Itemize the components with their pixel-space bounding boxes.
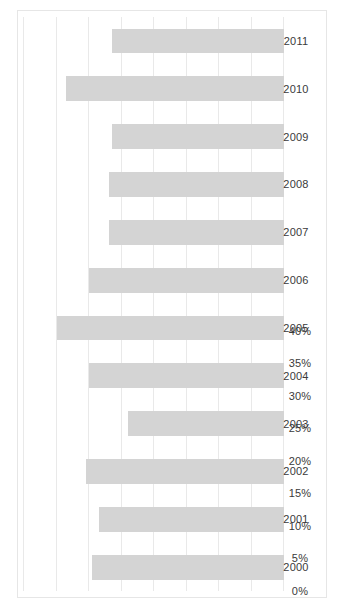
bar-slot — [24, 161, 284, 209]
plot-area — [24, 17, 284, 591]
category-tick-label-2003: 2003 — [273, 418, 319, 430]
bar-slot — [24, 256, 284, 304]
bar-slot — [24, 208, 284, 256]
bar-2004[interactable] — [89, 363, 284, 388]
bar-slot — [24, 543, 284, 591]
bar-2001[interactable] — [99, 507, 284, 532]
category-tick-label-2002: 2002 — [273, 465, 319, 477]
category-tick-label-2006: 2006 — [273, 274, 319, 286]
bar-slot — [24, 17, 284, 65]
bar-2009[interactable] — [112, 124, 284, 149]
bar-2003[interactable] — [128, 411, 284, 436]
category-tick-label-2009: 2009 — [273, 131, 319, 143]
bar-2002[interactable] — [86, 459, 284, 484]
category-tick-label-2008: 2008 — [273, 178, 319, 190]
category-tick-label-2011: 2011 — [273, 35, 319, 47]
bar-chart: 0%5%10%15%20%25%30%35%40% 20002001200220… — [18, 11, 326, 597]
chart-figure: 0%5%10%15%20%25%30%35%40% 20002001200220… — [17, 10, 327, 598]
bar-2011[interactable] — [112, 29, 284, 54]
bar-slot — [24, 448, 284, 496]
category-tick-label-2010: 2010 — [273, 83, 319, 95]
bar-2000[interactable] — [92, 555, 284, 580]
category-axis-ticks: 2000200120022003200420052006200720082009… — [286, 17, 322, 591]
chart-rotation-wrapper: 0%5%10%15%20%25%30%35%40% 20002001200220… — [18, 11, 326, 597]
bar-2008[interactable] — [109, 172, 285, 197]
category-tick-label-2000: 2000 — [273, 561, 319, 573]
bar-slot — [24, 113, 284, 161]
bar-2007[interactable] — [109, 220, 285, 245]
category-tick-label-2001: 2001 — [273, 513, 319, 525]
bar-2010[interactable] — [66, 76, 284, 101]
category-tick-label-2007: 2007 — [273, 226, 319, 238]
bar-slot — [24, 352, 284, 400]
bar-slot — [24, 495, 284, 543]
category-tick-label-2004: 2004 — [273, 370, 319, 382]
category-tick-label-2005: 2005 — [273, 322, 319, 334]
bar-slot — [24, 65, 284, 113]
bar-2005[interactable] — [57, 316, 285, 341]
bar-slot — [24, 400, 284, 448]
bar-2006[interactable] — [89, 268, 284, 293]
bar-slot — [24, 304, 284, 352]
